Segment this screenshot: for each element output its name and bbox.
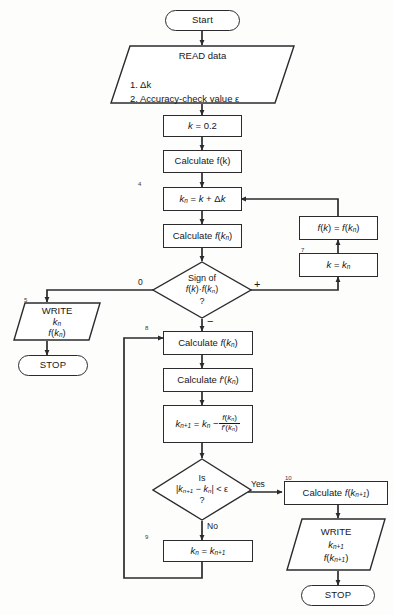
sign-decision-line3: ? — [199, 296, 204, 307]
sign-decision-line2: f(k)·f(kn) — [186, 284, 218, 295]
label-converged-no: No — [207, 521, 218, 531]
write-final-heading: WRITE — [321, 526, 352, 537]
edge-zero-branch — [47, 290, 156, 302]
node-step10[interactable]: Calculate f(kn+1) — [284, 481, 388, 505]
node-init-k-label: k = 0.2 — [188, 121, 217, 132]
label-sign-plus: + — [254, 279, 260, 290]
write5-item-1: kn — [53, 316, 61, 327]
node-stop-right-label: STOP — [325, 590, 352, 601]
node-step7[interactable]: k = kn — [299, 253, 378, 277]
node-stop-right[interactable]: STOP — [301, 585, 375, 606]
node-assign-fk-label: f(k) = f(kn) — [318, 223, 360, 234]
node-newton-update[interactable]: kn+1 = kn −f(kn)f'(kn) — [163, 405, 253, 443]
converged-decision-line2: |kn+1 − kn| < ε — [176, 484, 228, 495]
node-step4-number: 4 — [138, 181, 141, 187]
node-calculate-fk-label: Calculate f(k) — [175, 156, 231, 167]
node-step4-label: kn = k + Δk — [180, 194, 226, 205]
node-step10-label: Calculate f(kn+1) — [303, 488, 370, 499]
node-calculate-fprime-label: Calculate f'(kn) — [177, 375, 238, 386]
converged-decision-line3: ? — [199, 495, 204, 506]
flowchart-canvas: Start READ data 1. Δk 2. Accuracy-check … — [0, 0, 393, 615]
write-final-item-1: kn+1 — [328, 539, 344, 550]
label-sign-zero: 0 — [138, 277, 143, 287]
node-calculate-fkn[interactable]: Calculate f(kn) — [163, 224, 242, 248]
node-write-final[interactable]: WRITE kn+1 f(kn+1) — [286, 518, 386, 571]
node-start[interactable]: Start — [165, 10, 240, 31]
node-stop-left[interactable]: STOP — [18, 355, 88, 376]
node-step8[interactable]: Calculate f(kn) — [163, 331, 253, 355]
edge-assign-to-step4 — [241, 199, 338, 216]
node-newton-update-label: kn+1 = kn −f(kn)f'(kn) — [175, 415, 240, 434]
node-step9[interactable]: kn = kn+1 — [163, 540, 253, 562]
node-step9-number: 9 — [145, 534, 148, 540]
converged-decision-line1: Is — [198, 473, 205, 484]
node-step7-label: k = kn — [327, 260, 351, 271]
node-calculate-fkn-label: Calculate f(kn) — [173, 231, 233, 242]
node-step9-label: kn = kn+1 — [191, 546, 226, 557]
label-sign-minus: − — [207, 316, 213, 327]
node-step8-number: 8 — [145, 325, 148, 331]
sign-decision-line1: Sign of — [188, 273, 216, 284]
node-start-label: Start — [192, 15, 213, 26]
node-step8-label: Calculate f(kn) — [178, 338, 238, 349]
edge-plus-branch — [248, 277, 338, 290]
node-step4[interactable]: kn = k + Δk — [163, 187, 242, 211]
node-calculate-fk[interactable]: Calculate f(k) — [163, 150, 242, 173]
read-data-item-2: 2. Accuracy-check value ε — [130, 93, 239, 104]
node-stop-left-label: STOP — [40, 360, 67, 371]
write-final-item-2: f(kn+1) — [324, 552, 349, 563]
node-converged-decision[interactable]: Is |kn+1 − kn| < ε ? — [152, 458, 252, 521]
node-sign-decision[interactable]: Sign of f(k)·f(kn) ? — [152, 261, 252, 319]
write5-item-2: f(kn) — [48, 327, 65, 338]
read-data-item-1: 1. Δk — [130, 79, 151, 90]
write5-heading: WRITE — [42, 305, 73, 316]
node-write5[interactable]: WRITE kn f(kn) — [13, 302, 101, 341]
node-calculate-fprime[interactable]: Calculate f'(kn) — [163, 368, 253, 392]
label-converged-yes: Yes — [251, 479, 265, 489]
node-init-k[interactable]: k = 0.2 — [163, 115, 242, 137]
node-read-data[interactable]: READ data 1. Δk 2. Accuracy-check value … — [110, 45, 295, 104]
node-assign-fk[interactable]: f(k) = f(kn) — [299, 216, 378, 240]
